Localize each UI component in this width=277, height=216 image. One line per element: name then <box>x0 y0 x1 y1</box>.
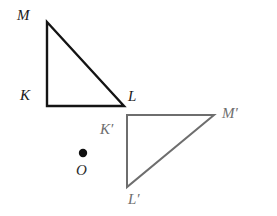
center-point-label-O: O <box>76 163 87 178</box>
vertex-label-L-prime: L′ <box>128 192 140 207</box>
geometry-figure: M K L K′ M′ L′ O <box>0 0 277 216</box>
center-point-O-dot <box>79 149 87 157</box>
triangle-K-prime-L-prime-M-prime-shape <box>127 115 214 187</box>
triangle-KML-shape <box>47 22 124 106</box>
vertex-label-M: M <box>17 8 30 23</box>
vertex-label-K: K <box>20 88 30 103</box>
vertex-label-M-prime: M′ <box>222 106 238 121</box>
vertex-label-K-prime: K′ <box>100 122 113 137</box>
vertex-label-L: L <box>128 89 136 104</box>
